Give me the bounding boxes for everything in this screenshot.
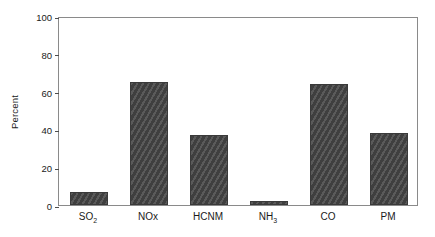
y-axis-tick-mark (55, 207, 59, 208)
y-axis-tick-label: 40 (12, 125, 52, 136)
y-axis-tick-mark (55, 18, 59, 19)
y-axis-tick-label: 60 (12, 88, 52, 99)
x-axis-tick-label: SO2 (58, 211, 118, 222)
y-axis-tick-mark (55, 93, 59, 94)
x-axis-tick-label: NH3 (238, 211, 298, 222)
bar (70, 192, 108, 205)
bar (310, 84, 348, 205)
x-axis-tick-label: HCNM (178, 211, 238, 222)
bar (370, 133, 408, 205)
y-axis-tick-label: 0 (12, 201, 52, 212)
y-axis-title: Percent (9, 52, 20, 172)
x-axis-tick-label: CO (298, 211, 358, 222)
y-axis-tick-mark (55, 55, 59, 56)
bar (130, 82, 168, 205)
y-axis-tick-mark (55, 131, 59, 132)
y-axis-tick-label: 100 (12, 12, 52, 23)
y-axis-tick-mark (55, 169, 59, 170)
bar-chart-figure: Percent 020406080100 SO2NOxHCNMNH3COPM (0, 0, 435, 237)
y-axis-tick-label: 20 (12, 163, 52, 174)
plot-inner: 020406080100 (59, 18, 417, 205)
y-axis-tick-label: 80 (12, 50, 52, 61)
x-axis-tick-label: PM (358, 211, 418, 222)
bar (250, 201, 288, 205)
plot-area: 020406080100 (58, 17, 418, 206)
x-axis-tick-label: NOx (118, 211, 178, 222)
bar (190, 135, 228, 205)
